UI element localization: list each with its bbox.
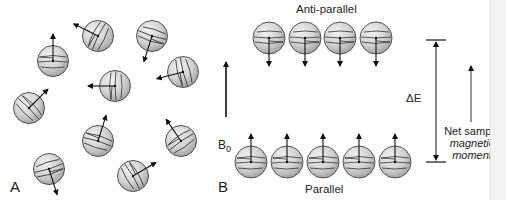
spin-nucleus-icon — [14, 89, 48, 123]
spin-nucleus-icon — [33, 154, 64, 195]
spin-nucleus-icon — [324, 22, 356, 66]
panel-b-label: B — [218, 178, 228, 195]
spin-nucleus-icon — [38, 34, 69, 77]
spin-nucleus-icon — [74, 21, 114, 53]
energy-gap-label: ΔE — [406, 92, 421, 104]
spin-nucleus-icon — [343, 134, 375, 178]
spin-nucleus-icon — [157, 56, 199, 87]
panel-a-label: A — [10, 178, 20, 195]
energy-gap-bracket — [426, 40, 446, 162]
spin-nucleus-icon — [307, 134, 339, 178]
spin-nucleus-icon — [235, 134, 267, 178]
spin-nucleus-icon — [360, 22, 392, 66]
parallel-title: Parallel — [305, 183, 343, 195]
spin-nucleus-icon — [271, 134, 303, 178]
panel-b-aligned-spins — [235, 22, 411, 178]
spin-nucleus-icon — [253, 22, 285, 66]
page-edge — [490, 0, 506, 200]
panel-a-random-spins — [14, 21, 199, 195]
spin-nucleus-icon — [118, 161, 156, 193]
spin-nucleus-icon — [88, 71, 131, 102]
spin-nucleus-icon — [289, 22, 321, 66]
anti-parallel-title: Anti-parallel — [296, 3, 357, 15]
b0-field-label: B0 — [218, 138, 231, 154]
spin-nucleus-icon — [166, 119, 197, 156]
spin-nucleus-icon — [82, 115, 113, 156]
spin-nucleus-icon — [379, 134, 411, 178]
spin-nucleus-icon — [137, 21, 168, 62]
